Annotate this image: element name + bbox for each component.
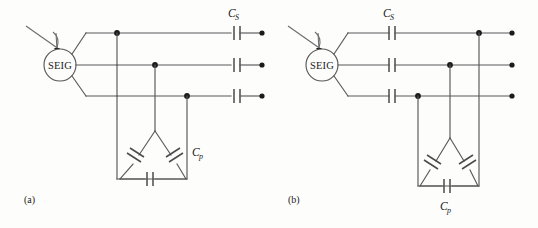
series-capacitor-a-phase2 <box>234 58 262 72</box>
terminal-a-phase1 <box>259 30 264 35</box>
series-capacitors-a <box>234 26 262 103</box>
series-capacitors-b <box>389 26 395 103</box>
series-capacitor-label-a-sub: S <box>235 13 239 22</box>
phase-buses-b <box>395 33 512 96</box>
series-capacitor-label-b-sub: S <box>390 13 394 22</box>
subfigure-a: SEIG <box>24 7 265 206</box>
terminal-a-phase2 <box>259 62 264 67</box>
seig-label-a: SEIG <box>48 60 72 71</box>
phase-buses-a <box>117 33 231 96</box>
seig-label-b: SEIG <box>310 60 334 71</box>
load-terminals-b <box>509 30 514 98</box>
subfigure-b: SEIG <box>288 7 515 215</box>
shunt-capacitor-label-a-sub: p <box>198 152 203 161</box>
shunt-capacitor-label-b: C p <box>440 200 451 215</box>
series-capacitor-b-phase3 <box>389 89 395 103</box>
terminal-b-phase3 <box>509 93 514 98</box>
stator-leads-a <box>72 33 117 96</box>
terminal-b-phase1 <box>509 30 514 35</box>
shunt-drop-leads-b <box>418 33 479 186</box>
subfigure-caption-b: (b) <box>288 194 300 206</box>
series-capacitor-a-phase1 <box>234 26 262 40</box>
series-capacitor-b-phase2 <box>389 58 395 72</box>
terminal-a-phase3 <box>259 93 264 98</box>
series-capacitor-b-phase1 <box>389 26 395 40</box>
series-capacitor-label-a: C S <box>228 7 239 22</box>
stator-leads-b <box>334 33 389 96</box>
load-terminals-a <box>259 30 264 98</box>
delta-shunt-bank-a <box>120 131 186 186</box>
series-capacitor-a-phase3 <box>234 89 262 103</box>
delta-shunt-bank-b <box>420 138 478 193</box>
circuit-svg: SEIG <box>0 0 538 228</box>
shunt-capacitor-label-a: C p <box>192 146 203 161</box>
terminal-b-phase2 <box>509 62 514 67</box>
shunt-capacitor-label-b-sub: p <box>446 206 451 215</box>
subfigure-caption-a: (a) <box>24 194 35 206</box>
circuit-figure: SEIG <box>0 0 538 228</box>
series-capacitor-label-b: C S <box>383 7 394 22</box>
